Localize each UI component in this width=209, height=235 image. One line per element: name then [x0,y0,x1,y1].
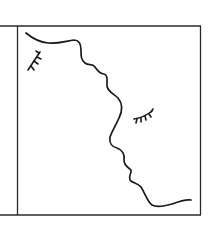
left-eyelash [34,61,38,64]
right-closed-eye [134,109,153,123]
left-eyelash [31,66,34,70]
right-eyelash [151,109,153,112]
profile-line [26,33,191,207]
right-eyelash [136,119,137,123]
right-eyelash [149,114,151,117]
picture-frame [0,26,201,215]
right-eyelash [145,116,146,120]
line-art-illustration [0,0,209,235]
left-closed-eye [28,51,41,70]
left-eyelash [37,57,41,59]
left-eyelash [36,51,39,53]
